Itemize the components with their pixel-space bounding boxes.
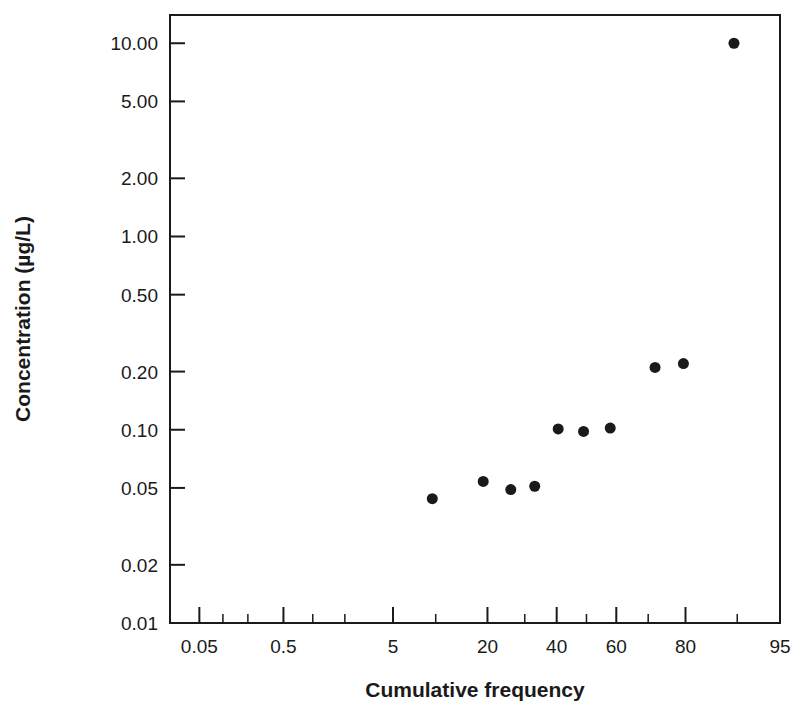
x-axis-tick-labels: 0.050.552040608095 [181, 636, 791, 657]
x-tick-label: 40 [546, 636, 567, 657]
data-point [578, 426, 589, 437]
y-tick-label: 10.00 [110, 33, 158, 54]
y-tick-label: 0.05 [121, 478, 158, 499]
plot-frame [170, 15, 780, 623]
y-tick-label: 0.02 [121, 555, 158, 576]
x-axis-minor-ticks [223, 614, 737, 623]
x-tick-label: 95 [769, 636, 790, 657]
chart-canvas: 0.010.020.050.100.200.501.002.005.0010.0… [0, 0, 809, 720]
y-tick-label: 0.20 [121, 362, 158, 383]
x-tick-label: 60 [606, 636, 627, 657]
x-axis-ticks [199, 607, 780, 623]
data-point [505, 484, 516, 495]
data-point [478, 476, 489, 487]
y-tick-label: 1.00 [121, 226, 158, 247]
x-tick-label: 80 [675, 636, 696, 657]
data-point [553, 423, 564, 434]
data-point [605, 423, 616, 434]
x-axis-title: Cumulative frequency [365, 678, 585, 701]
data-point [728, 38, 739, 49]
x-tick-label: 0.05 [181, 636, 218, 657]
y-axis-ticks [170, 43, 185, 565]
y-axis-tick-labels: 0.010.020.050.100.200.501.002.005.0010.0… [110, 33, 158, 634]
y-tick-label: 0.50 [121, 285, 158, 306]
data-point [678, 358, 689, 369]
x-tick-label: 20 [477, 636, 498, 657]
plot-frame-rect [170, 15, 780, 623]
data-point-series [427, 38, 740, 504]
data-point [427, 493, 438, 504]
data-point [650, 362, 661, 373]
y-tick-label: 2.00 [121, 168, 158, 189]
data-point [529, 481, 540, 492]
x-tick-label: 5 [388, 636, 399, 657]
probability-plot-figure: 0.010.020.050.100.200.501.002.005.0010.0… [0, 0, 809, 720]
y-tick-label: 0.01 [121, 613, 158, 634]
x-tick-label: 0.5 [270, 636, 296, 657]
y-axis-title: Concentration (µg/L) [11, 216, 34, 422]
y-tick-label: 0.10 [121, 420, 158, 441]
y-tick-label: 5.00 [121, 91, 158, 112]
